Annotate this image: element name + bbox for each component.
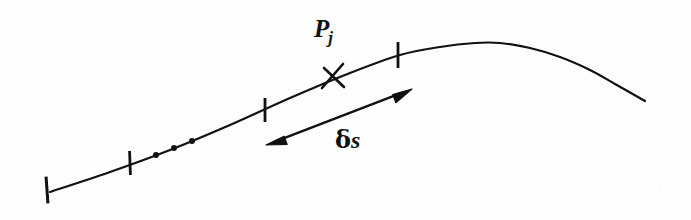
point-label-subscript: j — [328, 28, 333, 47]
diagram-svg — [0, 0, 691, 220]
ellipsis-dot-3 — [189, 138, 195, 144]
tick-2 — [130, 151, 131, 175]
point-label-symbol: P — [314, 15, 329, 42]
tick-1 — [46, 177, 48, 204]
delta-symbol: δ — [335, 125, 351, 154]
figure-canvas: Pj δs — [0, 0, 691, 220]
arc-length-label: δs — [335, 128, 360, 152]
point-label: Pj — [314, 16, 333, 46]
scan-noise — [0, 0, 691, 220]
arc-variable-symbol: s — [351, 127, 360, 153]
ellipsis-dot-2 — [171, 145, 177, 151]
ellipsis-dot-1 — [153, 152, 159, 158]
